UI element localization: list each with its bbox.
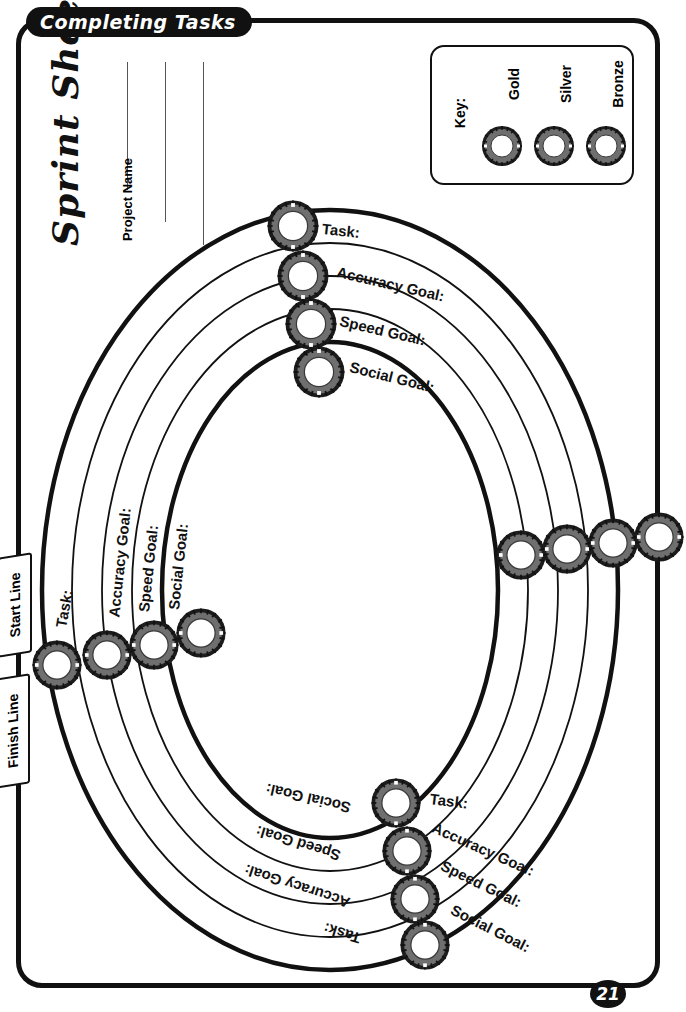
gear-ring-icon[interactable] xyxy=(369,776,423,830)
gear-ring-icon[interactable] xyxy=(127,618,181,672)
key-item-bronze-label: Bronze xyxy=(610,45,626,123)
start-line-label: Start Line xyxy=(7,571,23,638)
key-item-gold-label: Gold xyxy=(506,45,522,123)
gear-ring-icon xyxy=(480,124,524,172)
header-banner-title: Completing Tasks xyxy=(40,11,236,33)
gear-ring-icon[interactable] xyxy=(380,824,434,878)
gear-ring-icon[interactable] xyxy=(174,606,228,660)
gear-ring-icon[interactable] xyxy=(291,344,347,400)
gear-ring-icon[interactable] xyxy=(80,628,134,682)
gear-ring-icon[interactable] xyxy=(265,198,321,254)
gear-ring-icon xyxy=(532,124,576,172)
page-number: 21 xyxy=(596,984,620,1004)
project-name-line-3[interactable] xyxy=(203,62,204,245)
start-line-ribbon: Start Line xyxy=(0,552,32,657)
gear-ring-icon[interactable] xyxy=(632,510,686,564)
header-banner: Completing Tasks xyxy=(26,7,252,37)
finish-line-ribbon: Finish Line xyxy=(0,673,30,788)
gear-ring-icon[interactable] xyxy=(30,638,84,692)
project-name-label: Project Name xyxy=(120,135,135,265)
key-label: Key: xyxy=(452,78,468,148)
gear-ring-icon[interactable] xyxy=(398,918,452,972)
page-number-badge: 21 xyxy=(590,980,626,1008)
key-item-silver-label: Silver xyxy=(558,45,574,123)
project-name-line-2[interactable] xyxy=(165,62,166,222)
track-ring-inner xyxy=(162,342,498,838)
finish-line-label: Finish Line xyxy=(5,693,21,769)
gear-ring-icon xyxy=(584,124,628,172)
